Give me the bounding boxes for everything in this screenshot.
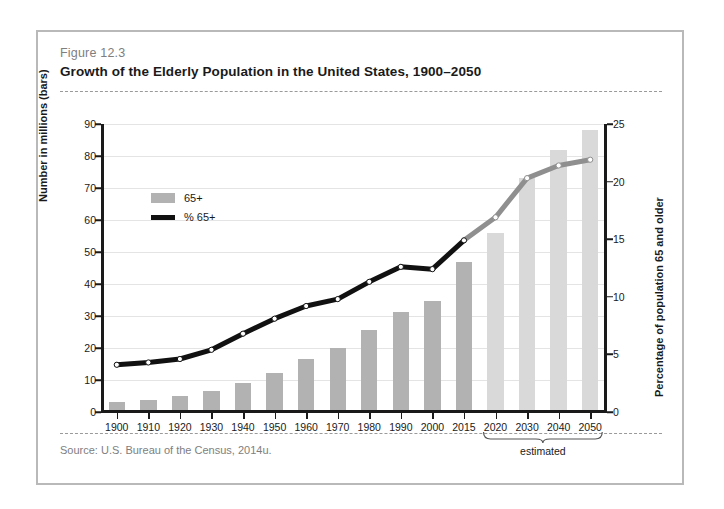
- bar: [361, 330, 377, 412]
- y-axis-left-tick-label: 90: [74, 118, 96, 130]
- x-axis-tick: [401, 413, 403, 419]
- line-marker: [304, 303, 309, 308]
- estimated-label: estimated: [493, 445, 593, 457]
- y-axis-left-tick: [95, 347, 101, 349]
- y-axis-left-tick-label: 10: [74, 374, 96, 386]
- y-axis-right-tick-label: 5: [613, 348, 635, 360]
- y-axis-left-tick: [95, 219, 101, 221]
- estimated-bracket-curly: [101, 430, 607, 444]
- x-axis-tick: [369, 413, 371, 419]
- legend: 65+ % 65+: [151, 192, 216, 230]
- legend-label-bars: 65+: [184, 192, 203, 204]
- line-marker: [177, 356, 182, 361]
- y-axis-right-tick: [607, 354, 613, 356]
- plot-area: [101, 124, 606, 412]
- y-axis-left-title: Number in millions (bars): [37, 69, 49, 202]
- y-axis-right-tick: [607, 181, 613, 183]
- y-axis-right-ticks: [607, 124, 608, 413]
- bar-swatch-icon: [151, 193, 175, 203]
- y-axis-left-tick-label: 60: [74, 214, 96, 226]
- divider-top: [60, 91, 662, 92]
- y-axis-left-tick: [95, 379, 101, 381]
- y-axis-right-tick-label: 25: [613, 118, 635, 130]
- y-axis-left-tick-label: 30: [74, 310, 96, 322]
- y-axis-left-tick: [95, 283, 101, 285]
- bar: [393, 312, 409, 412]
- line-swatch-icon: [151, 215, 175, 220]
- line-marker: [146, 360, 151, 365]
- figure-title: Growth of the Elderly Population in the …: [60, 64, 481, 79]
- bar: [424, 301, 440, 412]
- y-axis-right-tick-label: 20: [613, 176, 635, 188]
- x-axis-tick: [464, 413, 466, 419]
- y-axis-left-tick-label: 80: [74, 150, 96, 162]
- bar: [519, 178, 535, 412]
- y-axis-right-labels: 0510152025: [613, 124, 638, 413]
- x-axis-tick: [496, 413, 498, 419]
- bar: [330, 348, 346, 412]
- bar: [487, 233, 503, 412]
- x-axis-tick: [275, 413, 277, 419]
- line-marker: [398, 264, 403, 269]
- bar: [550, 150, 566, 412]
- x-axis-tick: [338, 413, 340, 419]
- y-axis-left-tick: [95, 123, 101, 125]
- y-axis-left-tick: [95, 155, 101, 157]
- y-axis-left-tick-label: 70: [74, 182, 96, 194]
- x-axis-tick: [148, 413, 150, 419]
- x-axis-tick: [243, 413, 245, 419]
- figure-number: Figure 12.3: [60, 46, 125, 60]
- bar: [582, 130, 598, 412]
- x-axis-tick: [117, 413, 119, 419]
- bar: [298, 359, 314, 412]
- figure-card: Figure 12.3 Growth of the Elderly Popula…: [36, 30, 684, 485]
- x-axis-tick: [527, 413, 529, 419]
- line-marker: [114, 362, 119, 367]
- x-axis-tick: [590, 413, 592, 419]
- line-marker: [461, 238, 466, 243]
- y-axis-left-ticks: [101, 124, 102, 413]
- y-axis-right-tick-label: 0: [613, 406, 635, 418]
- x-axis-tick: [211, 413, 213, 419]
- x-axis-tick: [180, 413, 182, 419]
- y-axis-left-tick-label: 50: [74, 246, 96, 258]
- y-axis-right-tick: [607, 411, 613, 413]
- y-axis-right-tick: [607, 123, 613, 125]
- legend-item-line: % 65+: [151, 211, 216, 223]
- legend-label-line: % 65+: [184, 211, 216, 223]
- estimated-bracket: estimated: [101, 430, 607, 454]
- y-axis-right-tick-label: 10: [613, 291, 635, 303]
- y-axis-right-tick-label: 15: [613, 233, 635, 245]
- y-axis-left-tick: [95, 187, 101, 189]
- y-axis-right-title: Percentage of population 65 and older: [653, 197, 665, 397]
- y-axis-left-tick-label: 0: [74, 406, 96, 418]
- x-axis-tick: [559, 413, 561, 419]
- y-axis-left-tick-label: 20: [74, 342, 96, 354]
- bar: [266, 373, 282, 412]
- gridline: [101, 124, 606, 125]
- y-axis-left-tick: [95, 251, 101, 253]
- bar: [235, 383, 251, 412]
- bar: [456, 262, 472, 412]
- x-axis-tick: [432, 413, 434, 419]
- y-axis-left-tick: [95, 315, 101, 317]
- y-axis-left-labels: 0102030405060708090: [71, 124, 96, 413]
- line-marker: [335, 297, 340, 302]
- legend-item-bars: 65+: [151, 192, 216, 204]
- gridline: [101, 156, 606, 157]
- x-axis-tick: [306, 413, 308, 419]
- line-path: [117, 240, 464, 364]
- y-axis-right-tick: [607, 296, 613, 298]
- line-marker: [240, 331, 245, 336]
- y-axis-right-tick: [607, 238, 613, 240]
- bar: [203, 391, 219, 412]
- y-axis-left-tick-label: 40: [74, 278, 96, 290]
- line-marker: [430, 267, 435, 272]
